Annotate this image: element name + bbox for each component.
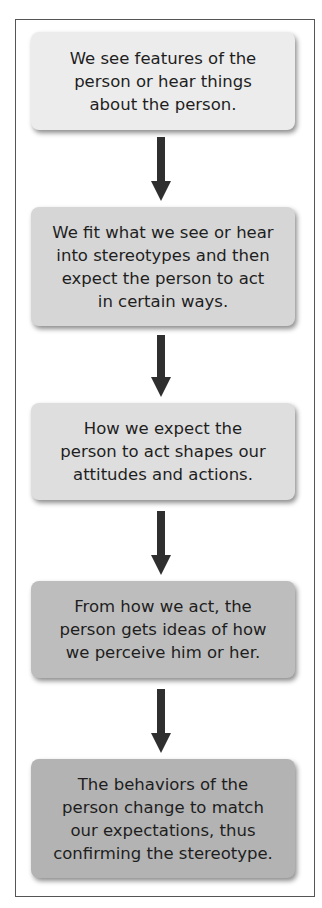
flow-step-5: The behaviors of the person change to ma… — [31, 759, 295, 878]
flow-step-3-text: How we expect the person to act shapes o… — [60, 417, 265, 486]
flow-step-4-text: From how we act, the person gets ideas o… — [59, 595, 266, 664]
down-arrow-icon — [151, 511, 171, 575]
arrow-head — [151, 733, 171, 753]
flow-step-5-line-1: The behaviors of the — [53, 773, 273, 796]
flow-step-1-line-1: We see features of the — [70, 47, 257, 70]
flow-step-2: We fit what we see or hear into stereoty… — [31, 207, 295, 326]
down-arrow-icon — [151, 689, 171, 753]
flow-step-5-line-2: person change to match — [53, 796, 273, 819]
flow-step-1-text: We see features of the person or hear th… — [70, 47, 257, 116]
flow-step-1-line-3: about the person. — [70, 93, 257, 116]
down-arrow-icon — [151, 137, 171, 201]
flow-step-2-line-4: in certain ways. — [52, 290, 273, 313]
arrow-head — [151, 377, 171, 397]
flow-step-5-line-3: our expectations, thus — [53, 819, 273, 842]
arrow-shaft — [157, 137, 165, 183]
flow-step-4-line-3: we perceive him or her. — [59, 641, 266, 664]
flow-step-2-line-3: expect the person to act — [52, 267, 273, 290]
arrow-shaft — [157, 689, 165, 735]
arrow-head — [151, 555, 171, 575]
flow-step-1-line-2: person or hear things — [70, 70, 257, 93]
flow-step-3-line-1: How we expect the — [60, 417, 265, 440]
flow-step-4-line-2: person gets ideas of how — [59, 618, 266, 641]
down-arrow-icon — [151, 335, 171, 397]
flow-step-2-text: We fit what we see or hear into stereoty… — [52, 221, 273, 313]
flow-step-3: How we expect the person to act shapes o… — [31, 403, 295, 500]
arrow-shaft — [157, 511, 165, 557]
flow-step-5-text: The behaviors of the person change to ma… — [53, 773, 273, 865]
flow-step-3-line-2: person to act shapes our — [60, 440, 265, 463]
arrow-head — [151, 181, 171, 201]
flow-step-2-line-2: into stereotypes and then — [52, 244, 273, 267]
flow-step-1: We see features of the person or hear th… — [31, 32, 295, 130]
flow-step-5-line-4: confirming the stereotype. — [53, 842, 273, 865]
flow-step-3-line-3: attitudes and actions. — [60, 463, 265, 486]
flow-step-4-line-1: From how we act, the — [59, 595, 266, 618]
flow-step-4: From how we act, the person gets ideas o… — [31, 581, 295, 678]
flow-step-2-line-1: We fit what we see or hear — [52, 221, 273, 244]
arrow-shaft — [157, 335, 165, 379]
